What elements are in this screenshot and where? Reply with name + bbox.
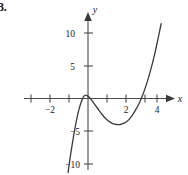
x-tick-label-4: 4 [155,105,160,115]
graph-figure: 3. 10 5 −5 −10 −2 2 4 x y [0,0,188,175]
x-axis-arrow-icon [166,95,175,103]
cubic-function-plot: 10 5 −5 −10 −2 2 4 x y [0,0,188,175]
x-tick-label-2: 2 [124,105,129,115]
y-tick-label-10: 10 [66,29,76,39]
problem-number-label: 3. [0,0,6,14]
y-tick-label-5: 5 [70,62,75,72]
y-axis-arrow-icon [84,12,92,21]
y-axis-label: y [92,4,98,15]
x-tick-label--2: −2 [45,105,55,115]
y-tick-label--10: −10 [65,160,80,170]
x-axis-label: x [177,93,183,104]
